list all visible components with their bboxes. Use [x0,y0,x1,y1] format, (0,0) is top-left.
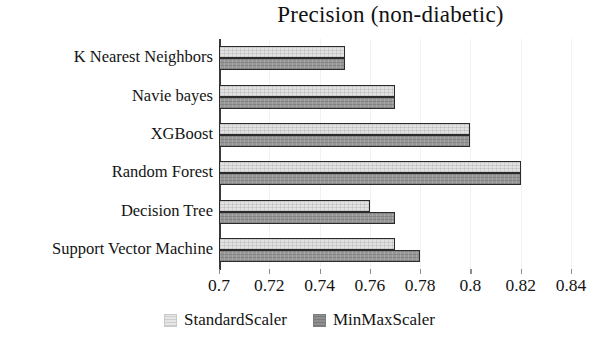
bar-minmaxscaler [219,250,420,262]
y-axis-label-1: Navie bayes [7,86,219,106]
legend-label: StandardScaler [184,310,287,330]
legend-label: MinMaxScaler [333,310,435,330]
bar-standardscaler [219,161,521,173]
bar-standardscaler [219,46,345,58]
x-tick-label-2: 0.74 [304,275,335,296]
gridline [420,39,421,269]
x-axis-tick [320,269,321,274]
y-axis-label-2: XGBoost [7,124,219,144]
x-tick-label-0: 0.7 [208,275,230,296]
gridline [571,39,572,269]
x-tick-label-6: 0.82 [505,275,536,296]
bar-standardscaler [219,85,395,97]
y-axis-label-4: Decision Tree [7,201,219,221]
x-axis-tick [470,269,471,274]
x-tick-label-7: 0.84 [556,275,587,296]
plot-area [219,39,571,269]
bar-group [219,123,571,147]
bar-group [219,238,571,262]
bar-group [219,85,571,109]
y-axis-label-5: Support Vector Machine [7,239,219,259]
legend-swatch-icon [164,314,177,327]
x-tick-label-1: 0.72 [254,275,285,296]
x-axis-tick-labels: 0.70.720.740.760.780.80.820.84 [0,275,599,299]
bar-minmaxscaler [219,58,345,70]
legend-item-minmax[interactable]: MinMaxScaler [313,310,435,330]
chart-title-text: Precision (non-diabetic) [277,2,503,28]
gridline [370,39,371,269]
x-tick-label-5: 0.8 [459,275,481,296]
x-axis-tick [219,269,220,274]
bar-group [219,161,571,185]
x-axis-tick [370,269,371,274]
gridline [269,39,270,269]
bar-minmaxscaler [219,173,521,185]
bar-group [219,200,571,224]
legend-swatch-icon [313,314,326,327]
x-axis-tick [521,269,522,274]
x-axis-tick [420,269,421,274]
bar-minmaxscaler [219,97,395,109]
bar-standardscaler [219,200,370,212]
gridline [470,39,471,269]
bar-group [219,46,571,70]
bar-minmaxscaler [219,212,395,224]
y-axis-category-labels: K Nearest NeighborsNavie bayesXGBoostRan… [0,39,219,269]
x-axis-tick [269,269,270,274]
x-tick-label-3: 0.76 [355,275,386,296]
legend-item-standard[interactable]: StandardScaler [164,310,287,330]
gridline [320,39,321,269]
bar-standardscaler [219,123,470,135]
chart-title: Precision (non-diabetic) [0,2,599,28]
x-axis-tick [571,269,572,274]
y-axis-label-0: K Nearest Neighbors [7,47,219,67]
bar-minmaxscaler [219,135,470,147]
gridline [521,39,522,269]
bar-standardscaler [219,238,395,250]
precision-bar-chart: Precision (non-diabetic) K Nearest Neigh… [0,0,599,342]
chart-legend: StandardScalerMinMaxScaler [0,310,599,330]
y-axis-label-3: Random Forest [7,162,219,182]
x-tick-label-4: 0.78 [405,275,436,296]
